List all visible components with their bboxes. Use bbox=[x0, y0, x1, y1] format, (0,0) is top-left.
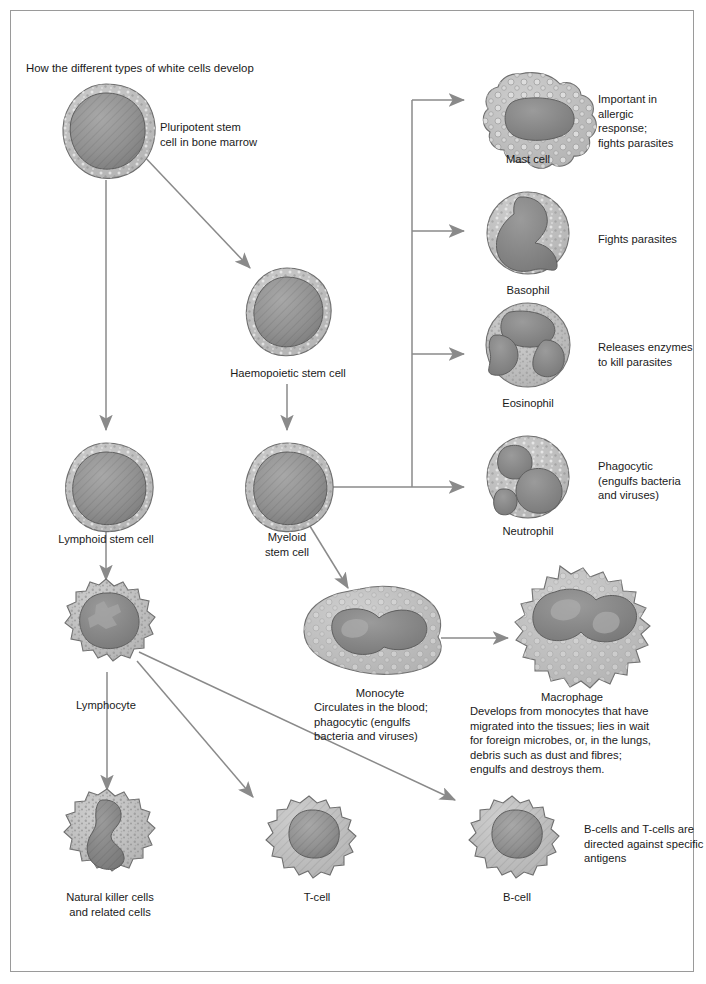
label-myeloid: Myeloid stem cell bbox=[222, 530, 352, 559]
desc-monocyte: Circulates in the blood; phagocytic (eng… bbox=[314, 700, 494, 744]
desc-bcell: B-cells and T-cells are directed against… bbox=[584, 822, 706, 866]
label-lymphocyte: Lymphocyte bbox=[46, 698, 166, 713]
label-mast: Mast cell bbox=[478, 152, 578, 167]
label-pluripotent: Pluripotent stem cell in bone marrow bbox=[160, 120, 257, 149]
label-eosinophil: Eosinophil bbox=[478, 396, 578, 411]
desc-macrophage: Develops from monocytes that have migrat… bbox=[470, 704, 702, 777]
diagram-page: How the different types of white cells d… bbox=[0, 0, 706, 984]
desc-eosinophil: Releases enzymes to kill parasites bbox=[598, 340, 706, 369]
desc-neutrophil: Phagocytic (engulfs bacteria and viruses… bbox=[598, 459, 706, 503]
desc-mast: Important in allergic response; fights p… bbox=[598, 92, 702, 150]
label-tcell: T-cell bbox=[262, 890, 372, 905]
desc-basophil: Fights parasites bbox=[598, 232, 702, 247]
label-monocyte: Monocyte bbox=[320, 686, 440, 701]
page-title: How the different types of white cells d… bbox=[26, 62, 254, 74]
label-natural-killer: Natural killer cells and related cells bbox=[40, 890, 180, 919]
label-bcell: B-cell bbox=[462, 890, 572, 905]
label-lymphoid: Lymphoid stem cell bbox=[26, 532, 186, 547]
label-basophil: Basophil bbox=[478, 283, 578, 298]
label-haemopoietic: Haemopoietic stem cell bbox=[208, 366, 368, 381]
label-macrophage: Macrophage bbox=[512, 690, 632, 705]
label-neutrophil: Neutrophil bbox=[478, 524, 578, 539]
